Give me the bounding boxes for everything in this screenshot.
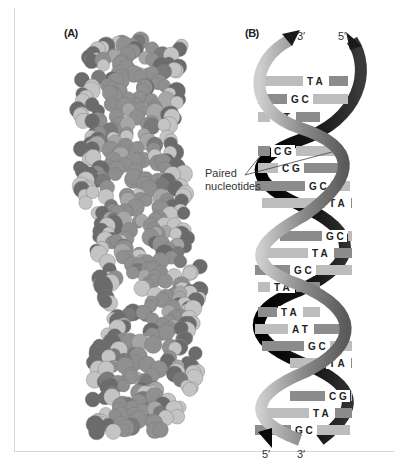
base-pair-label: C G (329, 391, 347, 402)
base-pair-label: G C (308, 341, 326, 352)
base-pair-label: G C (309, 181, 327, 192)
base-pair: T A (258, 306, 320, 318)
base-pair-label: G C (291, 94, 309, 105)
base-pair: T A (262, 247, 352, 259)
base-pair: T A (265, 75, 348, 87)
paired-nucleotides-callout: Paired nucleotides (205, 167, 261, 193)
base-pair-label: G C (326, 231, 344, 242)
base-pair: C G (290, 390, 352, 402)
base-pair-label: A T (292, 324, 308, 335)
base-pair: T A (262, 407, 352, 419)
base-pair-label: T A (313, 408, 329, 419)
base-pair-label: G C (294, 265, 312, 276)
base-pair-label: C G (274, 146, 292, 157)
end-label-5prime-bottom: 5′ (262, 448, 270, 460)
base-pair-label: T A (312, 248, 328, 259)
base-pair: A T (255, 323, 345, 335)
end-label-3prime-bottom: 3′ (297, 448, 305, 460)
end-label-5prime-top: 5′ (338, 30, 346, 42)
base-pair-label: T A (307, 76, 323, 87)
base-pair-label: T A (281, 307, 297, 318)
end-label-3prime-top: 3′ (297, 30, 305, 42)
base-pair: G C (280, 230, 352, 242)
